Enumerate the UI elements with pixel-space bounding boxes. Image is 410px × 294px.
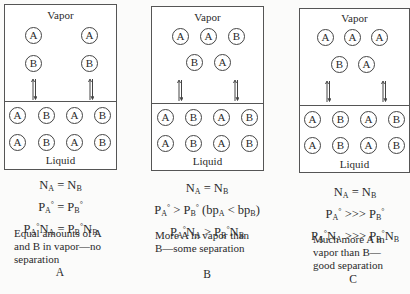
panel-b-caption: B [197, 268, 217, 280]
liquid-molecule: B [388, 137, 405, 154]
description-line: and B in vapor—no [14, 240, 102, 253]
liquid-molecule: A [304, 137, 321, 154]
liquid-molecule: A [66, 134, 83, 151]
equilibrium-arrow-icon [177, 79, 183, 102]
vapor-molecule: A [344, 29, 361, 46]
vapor-molecule: A [358, 56, 375, 73]
liquid-molecule: A [213, 109, 230, 126]
liquid-molecule: B [388, 111, 405, 128]
liquid-surface-line [152, 103, 263, 104]
liquid-molecule: A [360, 111, 377, 128]
vapor-molecule: B [186, 54, 203, 71]
liquid-molecule: A [360, 137, 377, 154]
panel-a-description: Equal amounts of A and B in vapor—no sep… [14, 227, 102, 266]
panel-a-caption: A [50, 266, 70, 278]
liquid-molecule: B [332, 137, 349, 154]
description-line: More A in vapor than [155, 229, 249, 242]
liquid-molecule: B [241, 135, 258, 152]
vapor-molecule-b: B [81, 55, 98, 72]
panel-c-caption: C [343, 273, 363, 285]
equilibrium-arrow-icon [233, 79, 239, 102]
equation: PA° > PB° (bpA < bpB) [133, 200, 281, 222]
vapor-molecule: A [172, 28, 189, 45]
panel-c-container: Vapor A A A B A A B A B A B A B Liquid [299, 8, 410, 173]
vapor-molecule-a: A [25, 27, 42, 44]
vapor-molecule: A [317, 29, 334, 46]
panel-c-description: Much more A in vapor than B— good separa… [313, 233, 385, 272]
liquid-molecule: A [304, 111, 321, 128]
vapor-molecule: A [371, 29, 388, 46]
equilibrium-arrow-icon [325, 80, 331, 103]
vapor-molecule-b: B [25, 55, 42, 72]
liquid-surface-line [300, 105, 409, 106]
vapor-label: Vapor [152, 11, 263, 23]
liquid-molecule: B [94, 134, 111, 151]
description-line: vapor than B— [313, 246, 385, 259]
liquid-label: Liquid [152, 155, 263, 167]
panel-a-container: Vapor A A B B A B A B A B A B Liquid [4, 4, 117, 170]
description-line: separation [14, 253, 102, 266]
panel-b-description: More A in vapor than B—some separation [155, 229, 249, 255]
liquid-molecule: A [213, 135, 230, 152]
vapor-label: Vapor [300, 12, 409, 24]
liquid-label: Liquid [300, 158, 409, 170]
equilibrium-arrow-icon [88, 78, 94, 101]
description-line: good separation [313, 259, 385, 272]
liquid-molecule: A [9, 134, 26, 151]
liquid-molecule: B [94, 107, 111, 124]
description-line: Equal amounts of A [14, 227, 102, 240]
liquid-label: Liquid [5, 154, 116, 166]
liquid-molecule: B [241, 109, 258, 126]
vapor-molecule: A [214, 54, 231, 71]
liquid-molecule: B [38, 134, 55, 151]
liquid-molecule: A [157, 109, 174, 126]
vapor-molecule: B [331, 56, 348, 73]
vapor-molecule: A [200, 28, 217, 45]
liquid-surface-line [5, 101, 116, 102]
equilibrium-arrow-icon [381, 80, 387, 103]
liquid-molecule: A [66, 107, 83, 124]
liquid-molecule: B [185, 109, 202, 126]
liquid-molecule: B [38, 107, 55, 124]
equilibrium-arrow-icon [31, 78, 37, 101]
vapor-molecule: B [228, 28, 245, 45]
panel-b-container: Vapor A A B B A A B A B A B A B Liquid [151, 6, 264, 171]
equation: NA = NB [133, 180, 281, 200]
vapor-label: Vapor [5, 9, 116, 21]
description-line: Much more A in [313, 233, 385, 246]
equation: PA° = PB° [4, 197, 117, 219]
liquid-molecule: B [332, 111, 349, 128]
equation: PA° >>> PB° [300, 204, 410, 226]
description-line: B—some separation [155, 242, 249, 255]
liquid-molecule: B [185, 135, 202, 152]
equation: NA = NB [4, 177, 117, 197]
equation: NA = NB [300, 184, 410, 204]
liquid-molecule: A [157, 135, 174, 152]
liquid-molecule: A [9, 107, 26, 124]
vapor-molecule-a: A [81, 27, 98, 44]
